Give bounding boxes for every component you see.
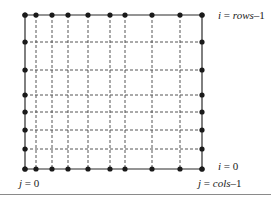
label-i-zero-eq: = [221, 160, 233, 172]
lattice-dot-bottom [33, 166, 38, 171]
lattice-dot-left [22, 92, 27, 97]
label-j-equals-cols-minus-1: j = cols–1 [198, 178, 242, 189]
lattice-dot-right [199, 67, 204, 72]
label-j-zero-eq: = [22, 177, 34, 189]
label-i-rows-expr: rows [233, 9, 254, 21]
label-i-equals-rows-minus-1: i = rows–1 [218, 10, 265, 21]
lattice-dot-right [199, 92, 204, 97]
label-j-cols-eq: = [201, 177, 213, 189]
lattice-dot-bottom [65, 166, 70, 171]
label-i-rows-suffix: –1 [254, 9, 265, 21]
label-i-rows-eq: = [221, 9, 233, 21]
lattice-dot-bottom [49, 166, 54, 171]
lattice-dot-bottom [107, 166, 112, 171]
lattice-dot-top [122, 12, 127, 17]
label-j-zero-expr: 0 [34, 177, 40, 189]
dashed-vertical-lines [36, 15, 180, 169]
lattice-dot-right [199, 12, 204, 17]
lattice-dot-left [22, 39, 27, 44]
footer-band [0, 195, 271, 200]
lattice-dot-top [177, 12, 182, 17]
lattice-dot-top [33, 12, 38, 17]
lattice-dot-bottom [85, 166, 90, 171]
lattice-dot-top [49, 12, 54, 17]
lattice-dot-left [22, 166, 27, 171]
lattice-dot-top [149, 12, 154, 17]
lattice-dot-right [199, 166, 204, 171]
lattice-dot-left [22, 12, 27, 17]
lattice-dot-bottom [177, 166, 182, 171]
lattice-dot-left [22, 146, 27, 151]
lattice-dot-left [22, 67, 27, 72]
lattice-dot-right [199, 39, 204, 44]
lattice-dot-top [85, 12, 90, 17]
lattice-dot-bottom [149, 166, 154, 171]
lattice-dot-left [22, 109, 27, 114]
lattice-dot-left [22, 127, 27, 132]
lattice-point-dots [22, 12, 204, 171]
label-j-equals-zero: j = 0 [19, 178, 39, 189]
label-j-cols-suffix: –1 [231, 177, 242, 189]
label-i-equals-zero: i = 0 [218, 161, 238, 172]
lattice-dot-right [199, 127, 204, 132]
lattice-dot-bottom [122, 166, 127, 171]
figure-canvas: i = rows–1 i = 0 j = cols–1 j = 0 [0, 0, 271, 200]
lattice-dot-right [199, 109, 204, 114]
label-j-cols-expr: cols [213, 177, 231, 189]
lattice-dot-top [65, 12, 70, 17]
lattice-dot-right [199, 146, 204, 151]
lattice-dot-top [107, 12, 112, 17]
label-i-zero-expr: 0 [233, 160, 239, 172]
